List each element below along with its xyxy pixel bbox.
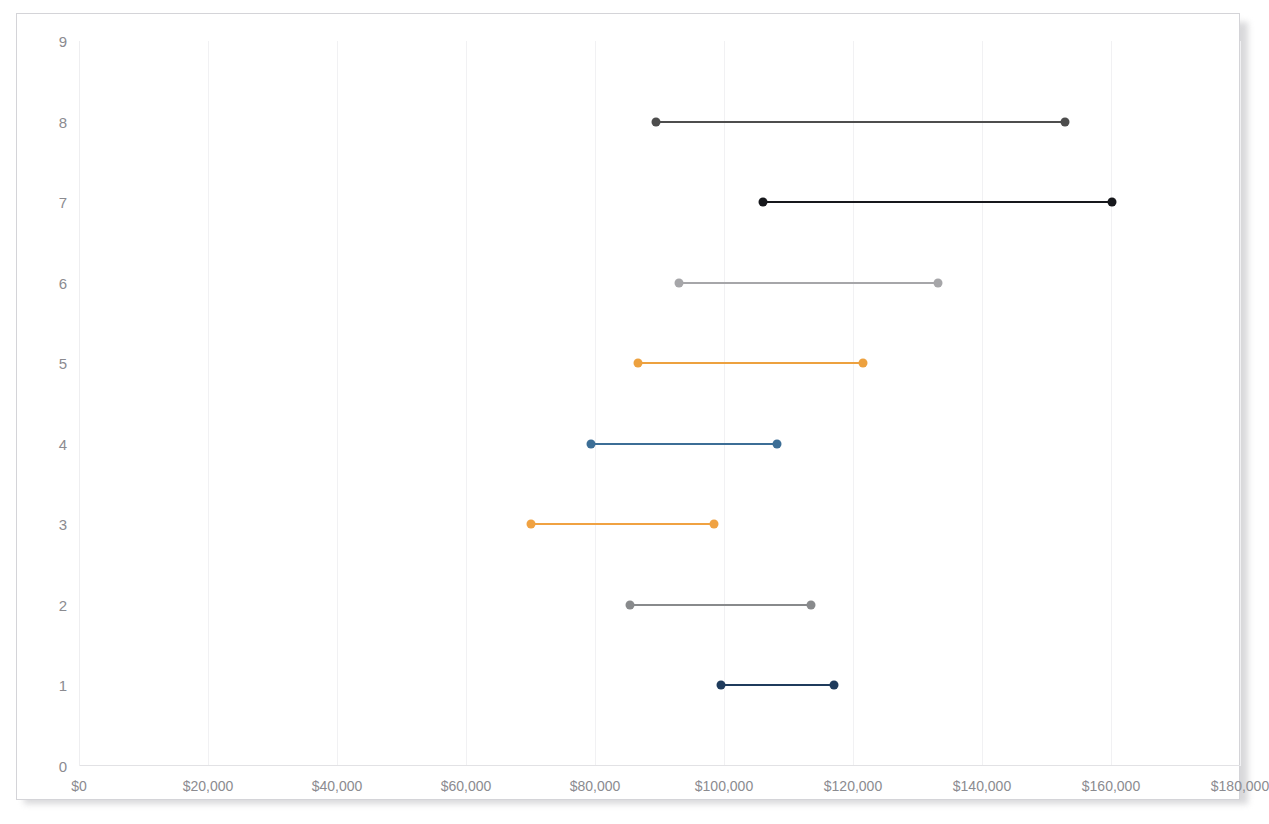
gridline-x (1240, 41, 1241, 766)
x-tick-label: $120,000 (824, 779, 882, 793)
range-end-marker[interactable] (772, 439, 781, 448)
x-tick-label: $60,000 (441, 779, 492, 793)
range-end-marker[interactable] (710, 520, 719, 529)
gridline-x (1111, 41, 1112, 766)
gridline-x (982, 41, 983, 766)
range-series-8[interactable] (656, 115, 1064, 129)
x-tick-label: $100,000 (695, 779, 753, 793)
range-series-5[interactable] (638, 356, 863, 370)
range-bar[interactable] (591, 443, 777, 445)
y-axis-line (79, 41, 80, 766)
range-series-6[interactable] (679, 276, 938, 290)
y-tick-label: 1 (59, 678, 67, 693)
range-series-2[interactable] (630, 598, 811, 612)
y-tick-label: 8 (59, 114, 67, 129)
range-start-marker[interactable] (633, 359, 642, 368)
gridline-x (853, 41, 854, 766)
gridline-x (595, 41, 596, 766)
y-tick-label: 9 (59, 34, 67, 49)
y-tick-label: 7 (59, 195, 67, 210)
range-end-marker[interactable] (830, 681, 839, 690)
chart-frame[interactable]: 0123456789 $0$20,000$40,000$60,000$80,00… (16, 13, 1240, 800)
range-series-7[interactable] (763, 195, 1113, 209)
gridline-x (208, 41, 209, 766)
x-axis-line (79, 765, 1240, 766)
x-tick-label: $180,000 (1211, 779, 1269, 793)
range-start-marker[interactable] (652, 117, 661, 126)
x-tick-label: $160,000 (1082, 779, 1140, 793)
range-bar[interactable] (638, 362, 863, 364)
x-tick-label: $80,000 (570, 779, 621, 793)
x-tick-label: $40,000 (312, 779, 363, 793)
range-end-marker[interactable] (934, 278, 943, 287)
range-end-marker[interactable] (1060, 117, 1069, 126)
y-tick-label: 4 (59, 436, 67, 451)
gridline-x (337, 41, 338, 766)
range-start-marker[interactable] (526, 520, 535, 529)
x-tick-label: $20,000 (183, 779, 234, 793)
range-bar[interactable] (679, 282, 938, 284)
range-bar[interactable] (721, 684, 834, 686)
range-series-4[interactable] (591, 437, 777, 451)
plot-area[interactable]: 0123456789 $0$20,000$40,000$60,000$80,00… (79, 41, 1240, 766)
range-end-marker[interactable] (807, 600, 816, 609)
range-series-3[interactable] (531, 517, 715, 531)
range-start-marker[interactable] (758, 198, 767, 207)
range-bar[interactable] (630, 604, 811, 606)
y-tick-label: 6 (59, 275, 67, 290)
gridline-x (724, 41, 725, 766)
range-end-marker[interactable] (1108, 198, 1117, 207)
range-start-marker[interactable] (717, 681, 726, 690)
gridline-x (466, 41, 467, 766)
y-tick-label: 2 (59, 597, 67, 612)
range-bar[interactable] (656, 121, 1064, 123)
range-series-1[interactable] (721, 678, 834, 692)
range-end-marker[interactable] (858, 359, 867, 368)
x-tick-label: $0 (71, 779, 87, 793)
y-tick-label: 3 (59, 517, 67, 532)
range-start-marker[interactable] (625, 600, 634, 609)
range-start-marker[interactable] (587, 439, 596, 448)
range-start-marker[interactable] (674, 278, 683, 287)
y-tick-label: 5 (59, 356, 67, 371)
range-bar[interactable] (531, 523, 715, 525)
x-tick-label: $140,000 (953, 779, 1011, 793)
range-bar[interactable] (763, 201, 1113, 203)
y-tick-label: 0 (59, 759, 67, 774)
